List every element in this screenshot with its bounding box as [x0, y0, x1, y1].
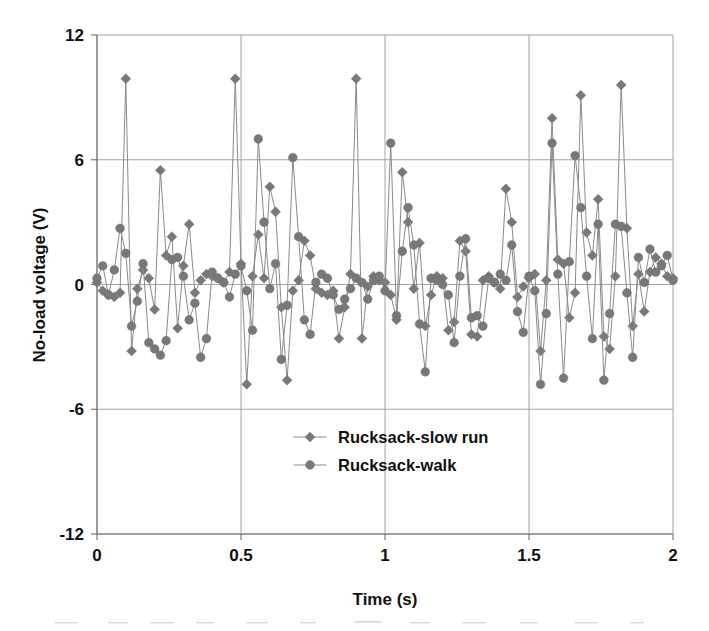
- data-point: [421, 367, 430, 376]
- data-point: [490, 278, 499, 287]
- data-point: [576, 203, 585, 212]
- data-point: [237, 261, 246, 270]
- data-point: [513, 307, 522, 316]
- data-point: [162, 336, 171, 345]
- data-point: [386, 139, 395, 148]
- data-point: [571, 151, 580, 160]
- data-point: [358, 278, 367, 287]
- data-point: [202, 334, 211, 343]
- x-tick-label: 1.5: [517, 546, 541, 565]
- data-point: [116, 224, 125, 233]
- x-axis-title: Time (s): [353, 590, 418, 609]
- data-point: [502, 276, 511, 285]
- data-point: [98, 261, 107, 270]
- data-point: [381, 286, 390, 295]
- data-point: [104, 290, 113, 299]
- data-point: [623, 288, 632, 297]
- x-tick-label: 1: [380, 546, 389, 565]
- data-point: [265, 284, 274, 293]
- x-tick-label: 2: [668, 546, 677, 565]
- y-tick-label: -12: [59, 525, 84, 544]
- data-point: [156, 351, 165, 360]
- data-point: [594, 220, 603, 229]
- data-point: [363, 295, 372, 304]
- data-point: [530, 286, 539, 295]
- data-point: [191, 299, 200, 308]
- chart-figure: 1260-6-12 00.511.52 No-load voltage (V) …: [0, 0, 709, 631]
- data-point: [455, 272, 464, 281]
- x-tick-label: 0: [92, 546, 101, 565]
- data-point: [444, 290, 453, 299]
- data-point: [306, 330, 315, 339]
- y-axis-title: No-load voltage (V): [30, 208, 49, 363]
- data-point: [196, 353, 205, 362]
- data-point: [300, 315, 309, 324]
- data-point: [173, 253, 182, 262]
- y-tick-label: 12: [65, 26, 84, 45]
- data-point: [127, 322, 136, 331]
- data-point: [323, 274, 332, 283]
- data-point: [242, 286, 251, 295]
- data-point: [582, 272, 591, 281]
- data-point: [605, 309, 614, 318]
- data-point: [473, 311, 482, 320]
- data-point: [634, 253, 643, 262]
- data-point: [525, 272, 534, 281]
- chart-canvas: 1260-6-12 00.511.52 No-load voltage (V) …: [0, 0, 709, 631]
- data-point: [340, 295, 349, 304]
- data-point: [294, 232, 303, 241]
- data-point: [404, 203, 413, 212]
- data-point: [375, 272, 384, 281]
- data-point: [409, 241, 418, 250]
- data-point: [657, 261, 666, 270]
- data-point: [461, 234, 470, 243]
- data-point: [588, 334, 597, 343]
- data-point: [669, 276, 678, 285]
- data-point: [260, 218, 269, 227]
- y-tick-label: -6: [69, 400, 84, 419]
- x-tick-label: 0.5: [229, 546, 253, 565]
- data-point: [617, 222, 626, 231]
- data-point: [288, 153, 297, 162]
- data-point: [646, 245, 655, 254]
- y-tick-label: 6: [75, 151, 84, 170]
- data-point: [311, 278, 320, 287]
- data-point: [133, 297, 142, 306]
- y-tick-label: 0: [75, 276, 84, 295]
- data-point: [93, 274, 102, 283]
- data-point: [346, 284, 355, 293]
- data-point: [225, 293, 234, 302]
- data-point: [663, 251, 672, 260]
- legend-label: Rucksack-slow run: [338, 428, 488, 446]
- data-point: [542, 309, 551, 318]
- data-point: [640, 278, 649, 287]
- data-point: [507, 241, 516, 250]
- data-point: [179, 272, 188, 281]
- data-point: [248, 326, 257, 335]
- data-point: [559, 374, 568, 383]
- data-point: [548, 139, 557, 148]
- data-point: [553, 270, 562, 279]
- data-point: [628, 353, 637, 362]
- data-point: [185, 315, 194, 324]
- data-point: [398, 247, 407, 256]
- data-point: [271, 259, 280, 268]
- data-point: [519, 328, 528, 337]
- data-point: [219, 278, 228, 287]
- legend-label: Rucksack-walk: [338, 456, 457, 474]
- data-point: [565, 257, 574, 266]
- data-point: [599, 376, 608, 385]
- data-point: [231, 270, 240, 279]
- data-point: [479, 322, 488, 331]
- legend-marker-circle: [306, 461, 315, 470]
- data-point: [110, 266, 119, 275]
- data-point: [139, 259, 148, 268]
- data-point: [438, 280, 447, 289]
- data-point: [392, 311, 401, 320]
- data-point: [415, 320, 424, 329]
- data-point: [277, 355, 286, 364]
- data-point: [329, 290, 338, 299]
- data-point: [254, 135, 263, 144]
- data-point: [335, 305, 344, 314]
- data-point: [283, 301, 292, 310]
